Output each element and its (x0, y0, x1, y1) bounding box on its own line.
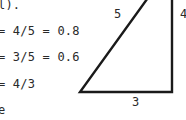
hypotenuse-label: 5 (114, 7, 121, 21)
right-triangle-diagram (0, 0, 186, 120)
vertical-side-label: 4 (180, 7, 186, 21)
base-label: 3 (132, 95, 139, 109)
triangle-outline (80, 0, 172, 92)
